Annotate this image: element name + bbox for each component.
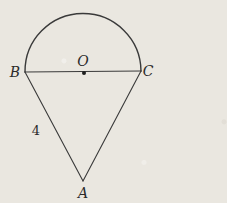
diagram-canvas: O B C A 4 xyxy=(0,0,160,203)
side-ca xyxy=(83,71,141,181)
geometry-diagram: O B C A 4 xyxy=(0,0,160,203)
label-side-length-4: 4 xyxy=(32,123,40,138)
label-center-o: O xyxy=(77,53,89,69)
label-vertex-c: C xyxy=(143,63,154,79)
center-dot xyxy=(82,71,86,75)
label-vertex-b: B xyxy=(9,64,20,80)
label-vertex-a: A xyxy=(76,185,88,201)
